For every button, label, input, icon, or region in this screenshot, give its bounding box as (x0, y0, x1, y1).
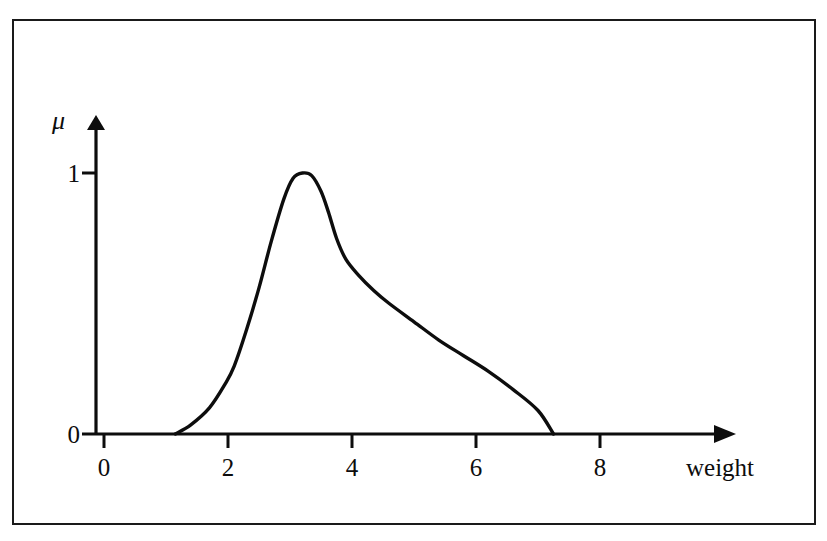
x-tick-label-8: 8 (570, 455, 630, 480)
y-tick-label-0: 0 (44, 422, 80, 447)
x-axis-title: weight (686, 455, 754, 480)
figure-border-frame (12, 19, 816, 525)
figure-root: 0 2 4 6 8 0 1 weight μ (0, 0, 827, 541)
y-axis-title: μ (52, 108, 65, 134)
x-tick-label-0: 0 (74, 455, 134, 480)
x-tick-label-6: 6 (446, 455, 506, 480)
x-tick-label-2: 2 (198, 455, 258, 480)
y-tick-label-1: 1 (44, 161, 80, 186)
x-tick-label-4: 4 (322, 455, 382, 480)
